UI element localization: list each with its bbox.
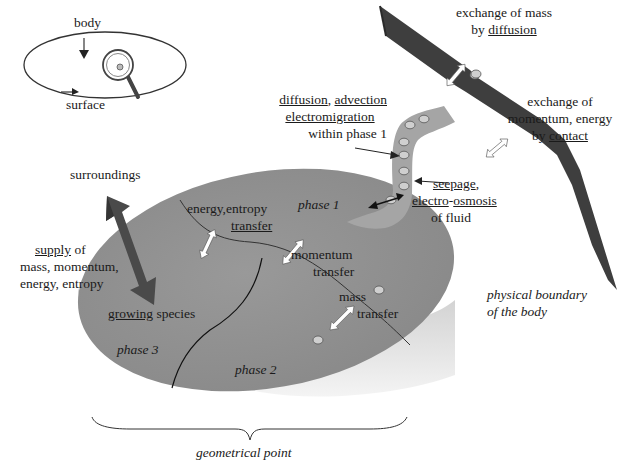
within-phase-label: diffusion, advection electromigration wi… xyxy=(263,91,387,142)
physical-boundary-label: physical boundary of the body xyxy=(487,286,587,320)
seepage-label: seepage, electro-osmosis of fluid xyxy=(412,175,490,226)
geometrical-point-label: geometrical point xyxy=(196,444,292,461)
surface-label: surface xyxy=(66,96,105,113)
particle xyxy=(313,336,323,344)
exchange-momentum-label: exchange of momentum, energy by contact xyxy=(500,93,620,144)
particle xyxy=(471,70,481,78)
body-label: body xyxy=(74,14,101,31)
diagram-graphics xyxy=(0,0,643,472)
body-arrow-head xyxy=(79,50,89,59)
exchange-mass-label: exchange of mass by diffusion xyxy=(432,4,576,38)
supply-label: supply of mass, momentum, energy, entrop… xyxy=(20,241,130,292)
magnifier-icon xyxy=(103,50,138,97)
geometrical-point-brace xyxy=(92,417,407,440)
growing-species-label: growing species xyxy=(108,305,195,322)
diagram-canvas: body surface exchange of mass by diffusi… xyxy=(0,0,643,472)
phase-3-label: phase 3 xyxy=(117,341,159,358)
phase-2-label: phase 2 xyxy=(235,361,277,378)
inset-body-diagram xyxy=(24,32,186,98)
momentum-transfer-label: momentum transfer xyxy=(291,246,354,280)
energy-transfer-label: energy,entropy transfer xyxy=(187,200,272,234)
surface-arrow-head xyxy=(72,88,79,95)
phase-1-label: phase 1 xyxy=(298,196,340,213)
surroundings-label: surroundings xyxy=(70,166,141,183)
mass-transfer-label: mass transfer xyxy=(339,288,398,322)
